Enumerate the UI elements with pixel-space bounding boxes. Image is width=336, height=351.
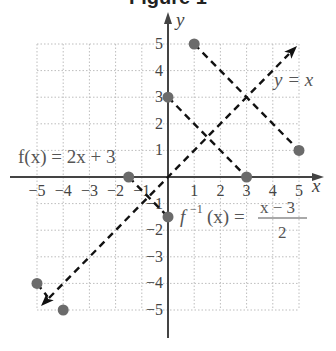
coordinate-plane: −5−4−3−2−11234554321−1−2−3−4−5 f(x) = 2x… — [0, 0, 336, 351]
x-tick-label: 3 — [243, 182, 251, 199]
f-inverse-lhs: f — [180, 206, 188, 227]
data-point — [163, 211, 174, 222]
x-tick-label: −3 — [81, 182, 98, 199]
y-tick-label: 3 — [155, 88, 163, 105]
y-tick-label: −5 — [146, 301, 163, 318]
x-tick-label: 4 — [269, 182, 277, 199]
x-axis-label: x — [311, 175, 321, 196]
data-point — [241, 172, 252, 183]
data-point — [163, 92, 174, 103]
y-tick-label: −4 — [146, 274, 163, 291]
y-tick-label: −3 — [146, 248, 163, 265]
f-label: f(x) = 2x + 3 — [18, 146, 115, 168]
x-tick-label: 5 — [295, 182, 303, 199]
data-point — [189, 39, 200, 50]
x-tick-label: 1 — [190, 182, 198, 199]
identity-label: y = x — [272, 69, 314, 90]
y-axis-label: y — [174, 9, 185, 30]
y-tick-label: 5 — [155, 35, 163, 52]
f-inverse-superscript: −1 — [190, 202, 203, 216]
data-point — [32, 278, 43, 289]
y-tick-label: 1 — [155, 141, 163, 158]
x-tick-label: −5 — [28, 182, 45, 199]
x-tick-label: −2 — [107, 182, 124, 199]
x-tick-label: 2 — [216, 182, 224, 199]
f-inverse-denominator: 2 — [278, 223, 287, 242]
y-tick-label: −2 — [146, 221, 163, 238]
y-tick-label: 2 — [155, 115, 163, 132]
f-inverse-numerator: x − 3 — [260, 198, 295, 217]
f-inverse-label: f −1 (x) = x − 3 2 — [180, 198, 307, 242]
y-axis-arrow-icon — [164, 12, 172, 24]
x-tick-label: −4 — [55, 182, 72, 199]
y-tick-label: 4 — [155, 62, 163, 79]
data-point — [294, 145, 305, 156]
data-point — [58, 305, 69, 316]
data-point — [123, 172, 134, 183]
f-inverse-arg: (x) = — [207, 206, 245, 228]
